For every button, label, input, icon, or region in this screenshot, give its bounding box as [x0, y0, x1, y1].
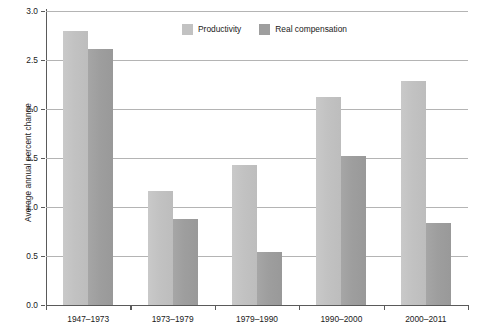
bar-real-compensation [341, 156, 366, 305]
bar-real-compensation [173, 219, 198, 305]
plot-area [46, 11, 468, 305]
y-axis-tick-label: 2.5 [0, 56, 38, 64]
legend-label-real-compensation: Real compensation [275, 25, 347, 33]
legend-item-real-compensation: Real compensation [259, 24, 347, 35]
y-axis-tick-mark [41, 305, 45, 306]
y-axis-tick-mark [41, 158, 45, 159]
x-axis-tick-mark [215, 305, 216, 310]
y-axis-tick-label: 3.0 [0, 7, 38, 15]
x-axis-tick-mark [468, 305, 469, 310]
bar-productivity [63, 31, 88, 305]
y-axis-tick-mark [41, 60, 45, 61]
bar-productivity [232, 165, 257, 305]
y-axis-tick-label: 2.0 [0, 105, 38, 113]
y-axis-tick-label: 0.5 [0, 252, 38, 260]
bar-real-compensation [426, 223, 451, 305]
y-axis-tick-label: 1.5 [0, 154, 38, 162]
bar-chart: Average annual percent change 0.00.51.01… [0, 0, 477, 334]
bar-real-compensation [257, 252, 282, 305]
legend-swatch-productivity [182, 24, 193, 35]
bar-real-compensation [88, 49, 113, 305]
legend-label-productivity: Productivity [198, 25, 241, 33]
y-axis-title: Average annual percent change [24, 63, 33, 263]
gridline [46, 11, 468, 12]
legend-swatch-real-compensation [259, 24, 270, 35]
y-axis-tick-label: 1.0 [0, 203, 38, 211]
bar-productivity [316, 97, 341, 305]
x-axis-tick-mark [46, 305, 47, 310]
x-axis-tick-label: 2000–2011 [371, 314, 477, 324]
y-axis-tick-mark [41, 256, 45, 257]
y-axis-tick-mark [41, 207, 45, 208]
x-axis-tick-mark [130, 305, 131, 310]
bar-productivity [401, 81, 426, 305]
y-axis-tick-mark [41, 11, 45, 12]
x-axis-tick-mark [384, 305, 385, 310]
bar-productivity [148, 191, 173, 305]
x-axis-tick-mark [299, 305, 300, 310]
chart-legend: Productivity Real compensation [182, 24, 347, 35]
y-axis-tick-label: 0.0 [0, 301, 38, 309]
legend-item-productivity: Productivity [182, 24, 241, 35]
y-axis-tick-mark [41, 109, 45, 110]
